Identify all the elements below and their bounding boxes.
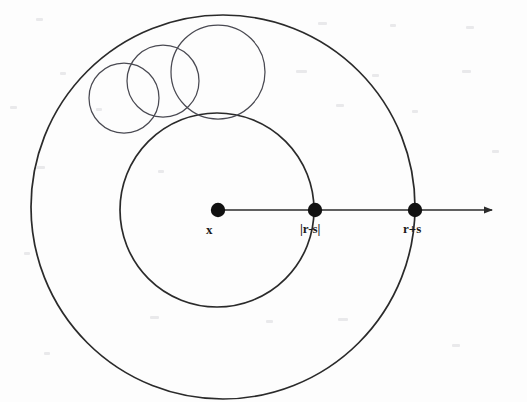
- geometry-diagram: [0, 0, 527, 402]
- label-inner-radius: |r-s|: [300, 221, 320, 237]
- label-center-x: x: [206, 222, 213, 238]
- small-circle-3: [171, 25, 265, 119]
- point-outer-radius: [408, 203, 422, 217]
- small-circle-2: [127, 45, 199, 117]
- point-inner-radius: [308, 203, 322, 217]
- small-circle-1: [89, 63, 159, 133]
- figure-container: x |r-s| r+s: [0, 0, 527, 402]
- label-outer-radius: r+s: [403, 221, 421, 237]
- point-center: [211, 203, 225, 217]
